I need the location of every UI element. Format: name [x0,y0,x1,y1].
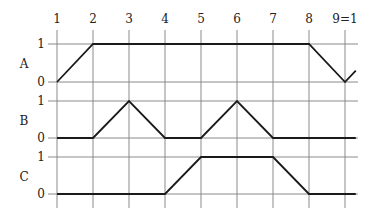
level-1-label: 1 [37,150,45,164]
x-tick-label: 9=1 [332,12,357,26]
trace-a [57,44,356,82]
trace-b [57,101,356,138]
x-tick-label: 1 [53,12,61,26]
axis-labels: 123456789=110A10B10C [19,12,358,201]
x-tick-label: 7 [269,12,277,26]
x-tick-label: 3 [125,12,133,26]
trace-c [57,157,356,194]
x-tick-label: 2 [89,12,97,26]
x-tick-label: 4 [161,12,169,26]
level-0-label: 0 [37,131,45,145]
series-label-b: B [20,114,29,128]
x-tick-label: 8 [305,12,313,26]
signal-traces [57,44,356,194]
level-0-label: 0 [37,75,45,89]
timing-diagram: 123456789=110A10B10C [0,0,376,221]
x-tick-label: 5 [197,12,205,26]
x-tick-label: 6 [233,12,241,26]
grid-lines [48,30,358,208]
level-1-label: 1 [37,94,45,108]
series-label-a: A [19,57,29,71]
level-1-label: 1 [37,37,45,51]
series-label-c: C [19,170,28,184]
level-0-label: 0 [37,187,45,201]
